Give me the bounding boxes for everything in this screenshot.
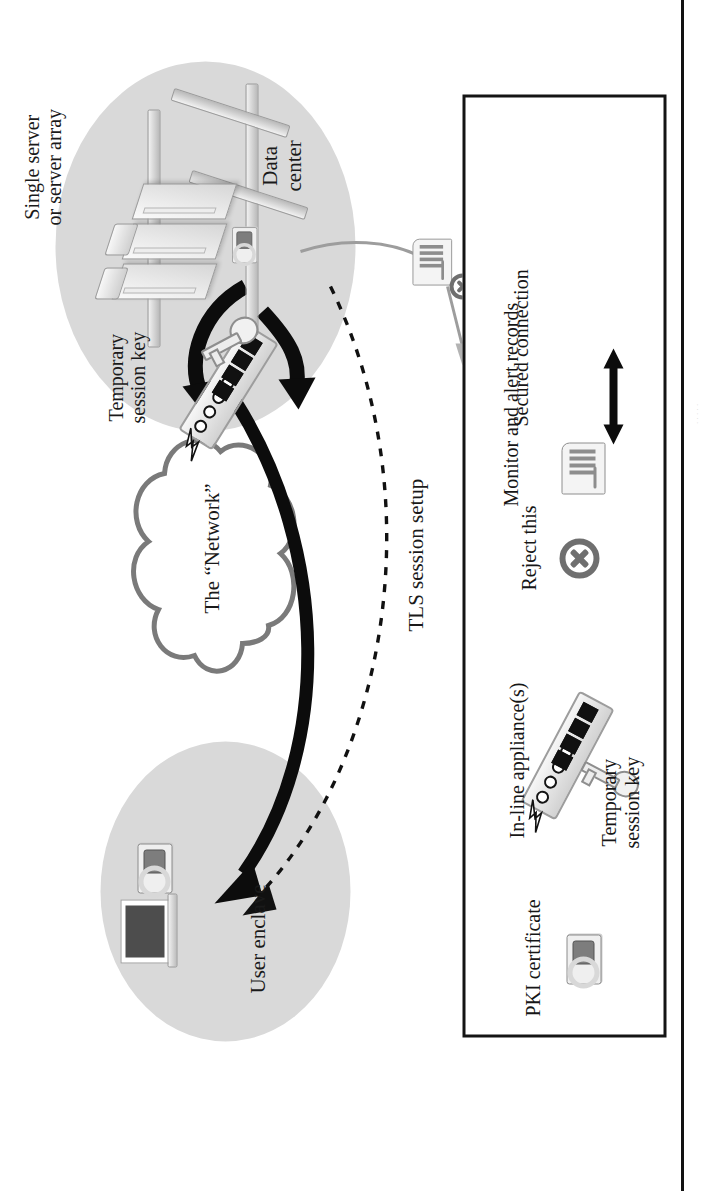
rack-post-right xyxy=(170,87,290,137)
report-line xyxy=(593,466,596,488)
server-rack xyxy=(95,71,330,351)
report-bars xyxy=(569,449,595,474)
server-slot xyxy=(132,247,206,253)
certificate-lock xyxy=(567,956,599,988)
rotated-figure-canvas: The “Network” xyxy=(0,0,703,1191)
figure-page: The “Network” xyxy=(0,0,703,1191)
arrow-stem xyxy=(609,366,617,426)
server-blade-3 xyxy=(131,183,237,219)
legend-label-temporary-session-key: Temporary session key xyxy=(597,756,643,848)
server-pki-certificate-icon xyxy=(228,227,257,267)
data-center-label: Data center xyxy=(258,140,305,191)
legend-label-pki-certificate: PKI certificate xyxy=(521,899,544,1016)
legend-label-reject-this: Reject this xyxy=(517,505,540,590)
double-arrow-icon xyxy=(603,348,623,444)
network-cloud-label: The “Network” xyxy=(200,483,224,613)
user-laptop-icon xyxy=(120,893,180,963)
page-edge-marginalia: · · · · · xyxy=(688,0,703,1191)
server-slot xyxy=(142,207,216,213)
legend-label-in-line-appliance: In-line appliance(s) xyxy=(505,682,528,838)
arrow-head-down xyxy=(603,424,623,444)
laptop-screen xyxy=(120,899,170,963)
certificate-lock xyxy=(232,243,255,266)
edge-marginalia-text: · · · · · xyxy=(694,0,702,424)
pki-certificate-icon xyxy=(561,934,601,990)
legend-label-secured-connection: Secured connection xyxy=(509,269,532,426)
tls-session-setup-label: TLS session setup xyxy=(404,478,428,631)
arrow-head-up xyxy=(603,348,623,368)
report-line xyxy=(441,260,444,280)
pki-certificate-icon xyxy=(132,843,172,899)
temporary-session-key-label: Temporary session key xyxy=(104,331,149,423)
reject-x-icon xyxy=(559,538,599,578)
report-bars xyxy=(419,245,442,268)
legend-box: PKI certificate xyxy=(462,94,666,1037)
server-slot xyxy=(122,287,196,293)
single-server-label: Single server or server array xyxy=(20,108,65,225)
certificate-lock xyxy=(138,865,170,897)
diagram-figure: The “Network” xyxy=(0,0,703,1191)
laptop-base xyxy=(167,893,177,967)
monitor-records-icon xyxy=(561,442,605,494)
user-enclave-label: User enclave xyxy=(246,884,270,993)
page-rule-divider xyxy=(681,0,684,1191)
monitor-records-icon xyxy=(412,238,452,285)
